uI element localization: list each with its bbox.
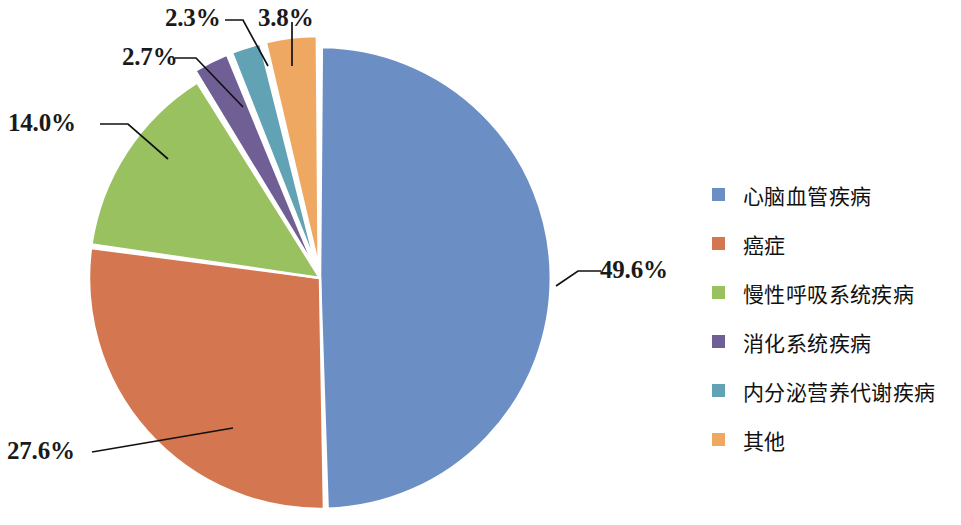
legend-item-label: 内分泌营养代谢疾病 bbox=[743, 376, 936, 406]
slice-label-orange: 3.8% bbox=[258, 4, 313, 32]
slice-label-green: 14.0% bbox=[8, 109, 76, 137]
legend-item-label: 消化系统疾病 bbox=[743, 327, 871, 357]
slice-label-teal: 2.3% bbox=[165, 4, 220, 32]
pie-chart: 49.6% 27.6% 14.0% 2.7% 2.3% 3.8% 心脑血管疾病癌… bbox=[0, 0, 961, 525]
slice-label-purple: 2.7% bbox=[122, 43, 177, 71]
legend-swatch-icon bbox=[712, 286, 725, 299]
legend-swatch-icon bbox=[712, 384, 725, 397]
legend: 心脑血管疾病癌症慢性呼吸系统疾病消化系统疾病内分泌营养代谢疾病其他 bbox=[712, 170, 961, 464]
legend-item[interactable]: 癌症 bbox=[712, 219, 961, 268]
legend-item-label: 其他 bbox=[743, 425, 786, 455]
leader-line-blue bbox=[556, 271, 601, 286]
pie-slice-group bbox=[89, 36, 551, 509]
legend-swatch-icon bbox=[712, 188, 725, 201]
slice-label-blue: 49.6% bbox=[600, 256, 668, 284]
legend-item[interactable]: 内分泌营养代谢疾病 bbox=[712, 366, 961, 415]
legend-item[interactable]: 消化系统疾病 bbox=[712, 317, 961, 366]
legend-swatch-icon bbox=[712, 433, 725, 446]
slice-label-red: 27.6% bbox=[7, 437, 75, 465]
legend-item[interactable]: 慢性呼吸系统疾病 bbox=[712, 268, 961, 317]
legend-item-label: 癌症 bbox=[743, 229, 786, 259]
legend-item-label: 慢性呼吸系统疾病 bbox=[743, 278, 914, 308]
legend-item-label: 心脑血管疾病 bbox=[743, 180, 871, 210]
legend-swatch-icon bbox=[712, 335, 725, 348]
legend-item[interactable]: 心脑血管疾病 bbox=[712, 170, 961, 219]
pie-slice[interactable] bbox=[89, 248, 324, 509]
legend-swatch-icon bbox=[712, 237, 725, 250]
pie-slice[interactable] bbox=[320, 47, 551, 509]
legend-item[interactable]: 其他 bbox=[712, 415, 961, 464]
